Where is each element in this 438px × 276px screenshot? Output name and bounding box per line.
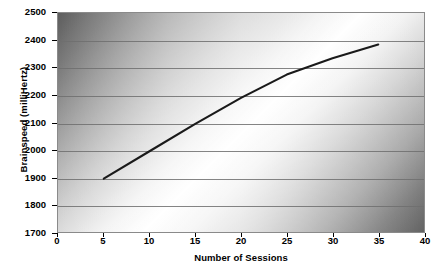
x-axis-tick-label: 40 <box>405 236 438 246</box>
x-axis-tick-mark <box>333 233 334 237</box>
x-axis-tick-mark <box>379 233 380 237</box>
chart-container: Brainspeed (milliHertz) 1700180019002000… <box>0 0 438 276</box>
x-axis-tick-mark <box>425 233 426 237</box>
x-axis-tick-mark <box>149 233 150 237</box>
x-axis-tick-label: 35 <box>359 236 399 246</box>
x-axis-tick-label: 30 <box>313 236 353 246</box>
x-axis-tick-labels: 0510152025303540 <box>0 0 438 276</box>
x-axis-tick-mark <box>241 233 242 237</box>
x-axis-tick-label: 10 <box>129 236 169 246</box>
x-axis-tick-mark <box>103 233 104 237</box>
x-axis-tick-mark <box>287 233 288 237</box>
x-axis-title: Number of Sessions <box>57 252 425 263</box>
x-axis-tick-label: 25 <box>267 236 307 246</box>
x-axis-tick-mark <box>57 233 58 237</box>
x-axis-tick-label: 15 <box>175 236 215 246</box>
x-axis-tick-label: 20 <box>221 236 261 246</box>
x-axis-tick-label: 5 <box>83 236 123 246</box>
x-axis-tick-label: 0 <box>37 236 77 246</box>
x-axis-tick-mark <box>195 233 196 237</box>
